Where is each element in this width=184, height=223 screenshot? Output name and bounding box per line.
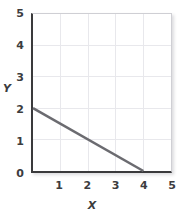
x-axis-tick-labels: 1 2 3 4 5 [31, 180, 172, 194]
x-tick-1: 1 [55, 180, 63, 191]
y-tick-0: 0 [16, 168, 24, 179]
plot-area [31, 13, 172, 173]
y-tick-5: 5 [16, 8, 24, 19]
chart-figure: 5 4 3 2 1 0 1 2 3 4 5 X Y [0, 0, 184, 223]
data-series-line [33, 14, 171, 171]
y-tick-4: 4 [16, 40, 24, 51]
y-tick-1: 1 [16, 136, 24, 147]
y-axis-title: Y [3, 83, 11, 94]
x-tick-2: 2 [84, 180, 92, 191]
x-tick-5: 5 [168, 180, 176, 191]
y-tick-3: 3 [16, 72, 24, 83]
line-segment [33, 108, 143, 171]
x-tick-3: 3 [112, 180, 120, 191]
x-axis-title: X [0, 200, 184, 211]
x-tick-4: 4 [140, 180, 148, 191]
y-tick-2: 2 [16, 104, 24, 115]
